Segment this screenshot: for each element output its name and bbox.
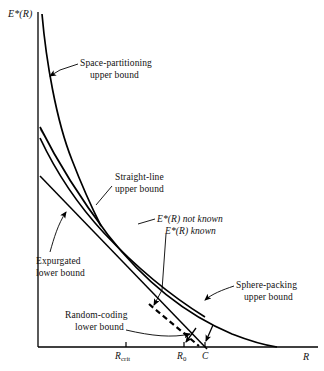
- leader-straight-line: [96, 186, 112, 205]
- annotation-space-partitioning: Space-partitioning upper bound: [80, 58, 152, 81]
- annotation-expurgated: Expurgated lower bound: [36, 256, 85, 279]
- leader-expurgated: [50, 212, 66, 252]
- leader-e-star-known: [154, 234, 166, 305]
- annotation-e-star-known: E*(R) known: [165, 226, 216, 238]
- y-axis-label: E*(R): [8, 8, 32, 20]
- leader-space-partitioning: [50, 64, 78, 76]
- random-coding-dashed-curve: [149, 304, 199, 346]
- leader-sphere-packing: [205, 286, 234, 300]
- leader-e-star-not-known: [138, 219, 155, 224]
- x-tick-label-rcrit: Rcrit: [115, 351, 130, 363]
- x-axis-label: R: [303, 351, 309, 363]
- error-exponent-figure: E*(R) R Space-partitioning upper bound S…: [0, 0, 324, 371]
- x-tick-label-r0: R0: [177, 351, 186, 363]
- annotation-sphere-packing: Sphere-packing upper bound: [236, 280, 297, 303]
- space-partitioning-curve: [42, 14, 101, 226]
- x-tick-label-c: C: [202, 351, 208, 363]
- annotation-e-star-not-known: E*(R) not known: [157, 214, 223, 226]
- x-axis-ticks: [126, 342, 205, 347]
- annotation-random-coding: Random-coding lower bound: [65, 310, 128, 333]
- annotation-straight-line: Straight-line upper bound: [115, 172, 164, 195]
